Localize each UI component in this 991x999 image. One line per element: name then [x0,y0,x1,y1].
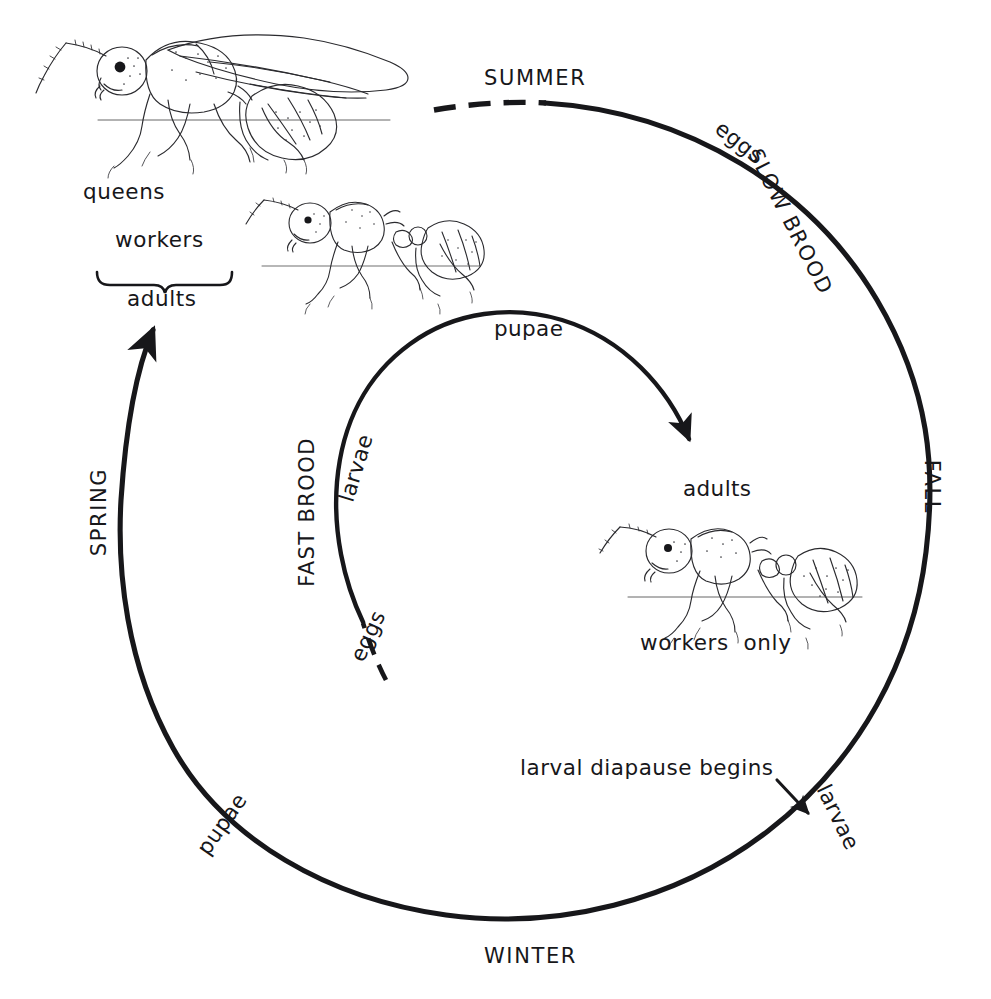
stage-label-inner-pupae: pupae [494,318,563,340]
worker-ant-upper-illustration [246,198,484,314]
season-label-fall: FALL [921,460,942,514]
diagram-canvas: SUMMER FALL WINTER SPRING eggs SLOW BROO… [0,0,991,999]
winged-queen-ant-illustration [36,35,408,178]
outer-spiral-dashed-start [434,102,546,110]
caste-label-workers: workers [115,229,204,251]
brood-label-fast-brood: FAST BROOD [297,437,318,587]
season-label-summer: SUMMER [484,68,586,89]
stage-label-outer-adults: adults [127,288,197,310]
caste-label-workers-only: workers only [640,632,791,654]
caste-label-queens: queens [83,181,165,203]
stage-label-inner-adults: adults [683,478,751,500]
annotation-larval-diapause-begins: larval diapause begins [520,757,774,779]
inner-spiral-path [336,312,689,622]
season-label-spring: SPRING [89,468,110,556]
season-label-winter: WINTER [484,946,577,967]
